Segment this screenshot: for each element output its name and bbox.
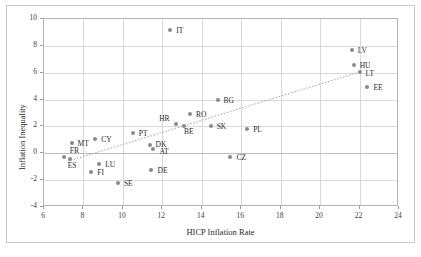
data-point-label: FR [70, 147, 79, 155]
data-point [358, 70, 362, 74]
y-tick-label: 6 [17, 68, 37, 76]
data-point-label: AT [159, 148, 168, 156]
x-tick-label: 12 [158, 212, 166, 220]
data-point-label: SK [217, 123, 227, 131]
y-tick-mark [40, 179, 43, 180]
chart-figure: FRESMTFICYLUSEPTDKDEATITHRBEROSKBGCZPLLV… [0, 0, 421, 257]
x-tick-mark [280, 206, 281, 209]
y-tick-label: -2 [17, 175, 37, 183]
x-tick-mark [161, 206, 162, 209]
y-tick-mark [40, 99, 43, 100]
data-point-label: LU [105, 161, 115, 169]
data-point [352, 63, 356, 67]
y-tick-mark [40, 206, 43, 207]
x-tick-mark [82, 206, 83, 209]
y-tick-mark [40, 152, 43, 153]
data-point [209, 124, 213, 128]
x-tick-label: 14 [197, 212, 205, 220]
x-tick-label: 8 [81, 212, 85, 220]
data-point [168, 28, 172, 32]
x-tick-label: 6 [41, 212, 45, 220]
x-tick-mark [43, 206, 44, 209]
data-point-label: HU [360, 62, 371, 70]
data-point-label: BE [184, 128, 194, 136]
data-point [148, 143, 152, 147]
data-point-label: CZ [236, 154, 246, 162]
x-tick-mark [240, 206, 241, 209]
x-tick-label: 22 [355, 212, 363, 220]
data-point-label: DE [157, 167, 167, 175]
data-point-label: HR [159, 115, 169, 123]
y-axis-title: Inflation Inequality [18, 104, 27, 170]
data-point-label: CY [101, 136, 111, 144]
y-tick-mark [40, 45, 43, 46]
x-tick-mark [359, 206, 360, 209]
x-tick-label: 10 [118, 212, 126, 220]
data-point [174, 122, 178, 126]
x-tick-label: 24 [394, 212, 402, 220]
data-point [216, 98, 220, 102]
data-point-label: RO [196, 111, 206, 119]
x-tick-mark [122, 206, 123, 209]
data-point-label: LV [358, 47, 367, 55]
x-tick-label: 16 [236, 212, 244, 220]
x-tick-label: 20 [315, 212, 323, 220]
data-point-label: FI [97, 169, 104, 177]
data-point-label: BG [224, 97, 234, 105]
data-point-label: IT [176, 27, 183, 35]
data-point-label: PT [139, 130, 148, 138]
data-point-label: PL [253, 126, 262, 134]
x-tick-mark [201, 206, 202, 209]
data-point [93, 137, 97, 141]
data-point [116, 181, 120, 185]
y-tick-label: 8 [17, 41, 37, 49]
x-tick-mark [319, 206, 320, 209]
plot-area: FRESMTFICYLUSEPTDKDEATITHRBEROSKBGCZPLLV… [43, 18, 398, 206]
y-tick-label: 4 [17, 95, 37, 103]
data-point [70, 141, 74, 145]
trendline [44, 19, 399, 207]
data-point [350, 48, 354, 52]
data-point-label: EE [373, 84, 382, 92]
data-point-label: SE [124, 180, 133, 188]
y-tick-mark [40, 125, 43, 126]
y-tick-mark [40, 18, 43, 19]
data-point-label: LT [366, 70, 374, 78]
x-tick-label: 18 [276, 212, 284, 220]
y-tick-mark [40, 72, 43, 73]
y-tick-label: 10 [17, 14, 37, 22]
data-point-label: MT [78, 140, 89, 148]
data-point [131, 131, 135, 135]
data-point-label: ES [68, 162, 77, 170]
x-axis-title: HICP Inflation Rate [43, 228, 398, 237]
y-tick-label: -4 [17, 202, 37, 210]
x-tick-mark [398, 206, 399, 209]
